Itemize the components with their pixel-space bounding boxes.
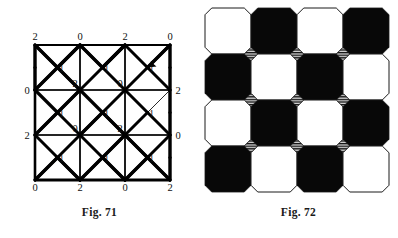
- svg-text:1: 1: [149, 64, 154, 74]
- figure-72-caption: Fig. 72: [199, 206, 398, 218]
- svg-text:0: 0: [24, 85, 29, 96]
- svg-text:0: 0: [175, 130, 180, 141]
- svg-text:1: 1: [104, 109, 109, 119]
- svg-text:1: 1: [104, 64, 109, 74]
- svg-text:0: 0: [77, 31, 82, 42]
- svg-text:1: 1: [59, 64, 64, 74]
- svg-text:2: 2: [117, 123, 122, 134]
- svg-text:0: 0: [32, 182, 37, 193]
- svg-text:1: 1: [149, 154, 154, 164]
- svg-text:0: 0: [72, 123, 77, 134]
- svg-text:1: 1: [104, 154, 109, 164]
- figure-72-diagram: [199, 0, 398, 206]
- svg-text:1: 1: [149, 109, 154, 119]
- svg-text:2: 2: [167, 182, 172, 193]
- svg-text:2: 2: [175, 85, 180, 96]
- svg-text:2: 2: [24, 130, 29, 141]
- figure-71-caption: Fig. 71: [0, 206, 199, 218]
- svg-text:1: 1: [59, 154, 64, 164]
- figure-page: 2020020202202002111111111 Fig. 71 Fig. 7…: [0, 0, 398, 238]
- figure-71-diagram: 2020020202202002111111111: [0, 0, 199, 206]
- svg-text:0: 0: [117, 78, 122, 89]
- figure-72-block: Fig. 72: [199, 0, 398, 238]
- figure-71-block: 2020020202202002111111111 Fig. 71: [0, 0, 199, 238]
- svg-text:0: 0: [167, 31, 172, 42]
- svg-text:2: 2: [122, 31, 127, 42]
- svg-text:1: 1: [59, 109, 64, 119]
- svg-text:0: 0: [122, 182, 127, 193]
- svg-text:2: 2: [72, 78, 77, 89]
- svg-text:2: 2: [77, 182, 82, 193]
- svg-text:2: 2: [32, 31, 37, 42]
